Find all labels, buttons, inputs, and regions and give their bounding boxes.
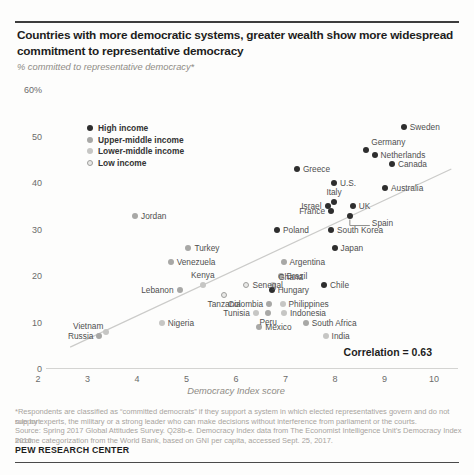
point-italy [331,199,337,205]
point-sweden [401,124,407,130]
point-argentina [281,259,287,265]
point-south-africa [303,320,309,326]
point-label-hungary: Hungary [278,285,309,295]
point-label-vietnam: Vietnam [73,321,103,331]
point-label-u-s: U.S. [340,178,356,188]
point-label-chile: Chile [330,280,349,290]
point-label-france: France [299,206,325,216]
point-label-philippines: Philippines [289,299,329,309]
point-label-jordan: Jordan [141,211,166,221]
point-netherlands [372,152,378,158]
point-poland [274,227,280,233]
point-label-uk: UK [359,201,371,211]
point-label-venezuela: Venezuela [177,257,216,267]
point-venezuela [168,259,174,265]
point-australia [382,185,388,191]
point-label-japan: Japan [341,243,364,253]
point-france [328,208,334,214]
point-label-nigeria: Nigeria [168,318,194,328]
point-u-s [331,180,337,186]
point-label-mexico: Mexico [265,322,291,332]
point-label-south-korea: South Korea [337,225,383,235]
point-label-brazil: Brazil [287,271,308,281]
point-label-russia: Russia [68,331,93,341]
point-label-germany: Germany [371,137,405,147]
point-greece [294,166,300,172]
point-philippines [280,301,286,307]
point-label-italy: Italy [326,187,341,197]
point-label-australia: Australia [391,183,423,193]
chart-page: Countries with more democratic systems, … [0,0,474,475]
point-label-india: India [332,331,350,341]
point-lebanon [177,287,183,293]
point-label-canada: Canada [398,159,427,169]
point-label-turkey: Turkey [194,243,219,253]
point-label-colombia: Colombia [228,299,263,309]
point-label-lebanon: Lebanon [141,285,173,295]
point-nigeria [159,320,165,326]
point-label-tunisia: Tunisia [223,308,249,318]
point-south-korea [328,227,334,233]
point-label-greece: Greece [303,164,330,174]
point-spain [347,213,353,219]
point-tunisia [253,310,259,316]
point-jordan [132,213,138,219]
point-label-kenya: Kenya [191,270,215,280]
point-tanzania [221,292,227,298]
point-label-poland: Poland [283,225,309,235]
point-label-south-africa: South Africa [312,318,357,328]
point-label-sweden: Sweden [410,122,440,132]
point-japan [332,245,338,251]
point-label-argentina: Argentina [290,257,326,267]
trend-overlay [0,0,474,475]
